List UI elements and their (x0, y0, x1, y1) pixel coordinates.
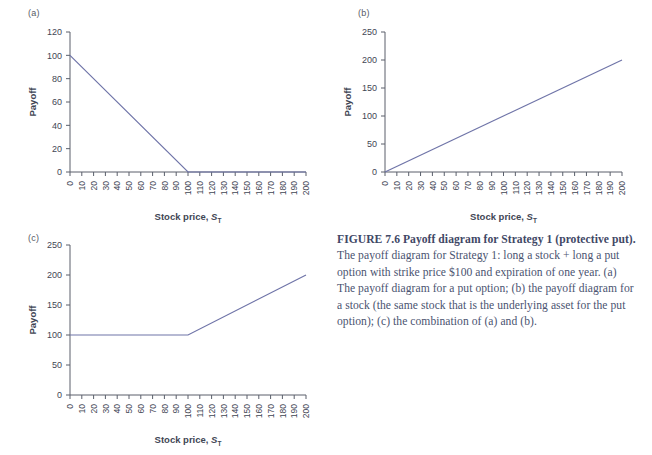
svg-text:30: 30 (416, 181, 426, 191)
svg-text:130: 130 (534, 181, 544, 195)
svg-text:200: 200 (617, 181, 627, 195)
svg-text:60: 60 (451, 181, 461, 191)
panel-a-plot: 0204060801001200102030405060708090100110… (0, 0, 330, 228)
svg-text:0: 0 (372, 167, 377, 177)
svg-text:60: 60 (136, 404, 146, 414)
svg-text:Stock price, ST: Stock price, ST (470, 211, 537, 224)
svg-text:70: 70 (148, 181, 158, 191)
caption-lead: FIGURE 7.6 Payoff diagram for Strategy 1… (337, 233, 636, 246)
panel-c: (c) 050100150200250010203040506070809010… (0, 225, 330, 455)
svg-text:110: 110 (195, 404, 205, 418)
svg-text:160: 160 (254, 404, 264, 418)
svg-text:170: 170 (582, 181, 592, 195)
svg-text:170: 170 (266, 404, 276, 418)
svg-text:50: 50 (439, 181, 449, 191)
svg-text:200: 200 (47, 270, 62, 280)
svg-text:30: 30 (101, 181, 111, 191)
svg-text:200: 200 (301, 404, 311, 418)
svg-text:100: 100 (183, 181, 193, 195)
svg-text:170: 170 (266, 181, 276, 195)
svg-text:120: 120 (207, 404, 217, 418)
svg-text:100: 100 (362, 111, 377, 121)
svg-text:20: 20 (89, 181, 99, 191)
svg-text:0: 0 (380, 181, 390, 186)
svg-text:50: 50 (367, 139, 377, 149)
svg-text:20: 20 (404, 181, 414, 191)
svg-text:130: 130 (219, 404, 229, 418)
svg-text:80: 80 (52, 74, 62, 84)
svg-text:0: 0 (57, 390, 62, 400)
svg-text:20: 20 (52, 144, 62, 154)
svg-text:Payoff: Payoff (342, 87, 353, 117)
svg-text:30: 30 (101, 404, 111, 414)
svg-text:180: 180 (594, 181, 604, 195)
panel-c-plot: 0501001502002500102030405060708090100110… (0, 225, 330, 455)
svg-text:Stock price, ST: Stock price, ST (155, 211, 222, 224)
svg-text:250: 250 (362, 27, 377, 37)
figure-caption: FIGURE 7.6 Payoff diagram for Strategy 1… (337, 232, 637, 330)
svg-text:10: 10 (77, 404, 87, 414)
svg-text:50: 50 (124, 404, 134, 414)
caption-body: The payoff diagram for Strategy 1: long … (337, 249, 634, 328)
svg-text:0: 0 (57, 167, 62, 177)
svg-text:90: 90 (171, 404, 181, 414)
svg-text:60: 60 (136, 181, 146, 191)
svg-text:90: 90 (487, 181, 497, 191)
svg-text:Payoff: Payoff (27, 305, 38, 335)
svg-text:100: 100 (183, 404, 193, 418)
svg-text:250: 250 (47, 240, 62, 250)
svg-text:140: 140 (230, 181, 240, 195)
svg-text:200: 200 (301, 181, 311, 195)
svg-text:80: 80 (475, 181, 485, 191)
svg-text:20: 20 (89, 404, 99, 414)
svg-text:150: 150 (47, 300, 62, 310)
svg-text:160: 160 (254, 181, 264, 195)
svg-text:0: 0 (65, 404, 75, 409)
svg-text:130: 130 (219, 181, 229, 195)
svg-text:150: 150 (242, 404, 252, 418)
svg-text:50: 50 (52, 360, 62, 370)
svg-text:50: 50 (124, 181, 134, 191)
svg-text:190: 190 (289, 181, 299, 195)
svg-text:10: 10 (77, 181, 87, 191)
svg-text:190: 190 (289, 404, 299, 418)
svg-text:200: 200 (362, 55, 377, 65)
svg-text:150: 150 (558, 181, 568, 195)
svg-text:90: 90 (171, 181, 181, 191)
svg-text:100: 100 (499, 181, 509, 195)
figure-7-6: (a) 020406080100120010203040506070809010… (0, 0, 652, 455)
svg-text:120: 120 (207, 181, 217, 195)
svg-text:120: 120 (47, 27, 62, 37)
panel-b-plot: 0501001502002500102030405060708090100110… (330, 0, 652, 228)
svg-text:180: 180 (278, 404, 288, 418)
svg-text:10: 10 (392, 181, 402, 191)
svg-text:40: 40 (112, 181, 122, 191)
svg-text:80: 80 (160, 181, 170, 191)
svg-text:190: 190 (605, 181, 615, 195)
svg-text:0: 0 (65, 181, 75, 186)
svg-text:180: 180 (278, 181, 288, 195)
svg-text:80: 80 (160, 404, 170, 414)
svg-text:40: 40 (52, 121, 62, 131)
svg-text:150: 150 (362, 83, 377, 93)
svg-text:150: 150 (242, 181, 252, 195)
svg-text:160: 160 (570, 181, 580, 195)
svg-text:110: 110 (195, 181, 205, 195)
svg-text:110: 110 (511, 181, 521, 195)
svg-text:120: 120 (522, 181, 532, 195)
svg-text:100: 100 (47, 330, 62, 340)
svg-text:140: 140 (546, 181, 556, 195)
svg-text:40: 40 (112, 404, 122, 414)
svg-text:Payoff: Payoff (27, 87, 38, 117)
svg-text:140: 140 (230, 404, 240, 418)
svg-text:60: 60 (52, 97, 62, 107)
panel-a: (a) 020406080100120010203040506070809010… (0, 0, 330, 228)
svg-text:100: 100 (47, 51, 62, 61)
svg-text:70: 70 (148, 404, 158, 414)
svg-text:40: 40 (428, 181, 438, 191)
panel-b: (b) 050100150200250010203040506070809010… (330, 0, 652, 228)
svg-text:70: 70 (463, 181, 473, 191)
svg-text:Stock price, ST: Stock price, ST (155, 434, 222, 447)
